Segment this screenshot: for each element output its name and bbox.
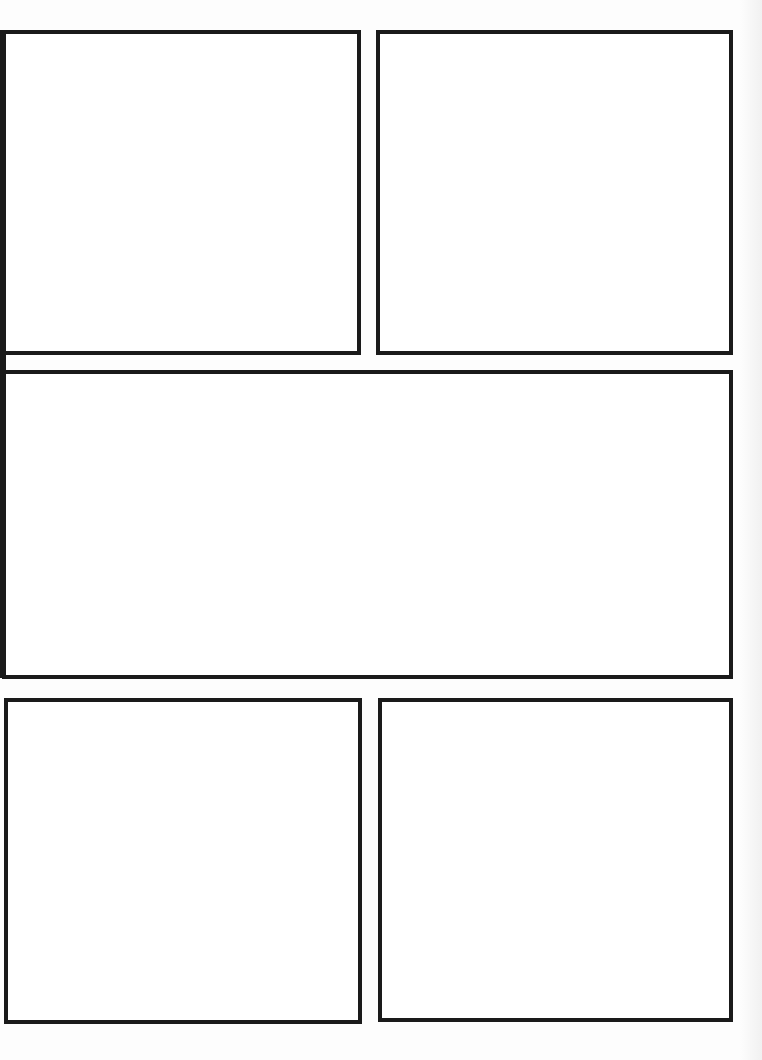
comic-panel-4	[4, 698, 362, 1024]
comic-panel-1	[2, 30, 361, 355]
comic-panel-2	[376, 30, 733, 355]
page-edge-shadow	[740, 0, 762, 1060]
comic-panel-3-wide	[2, 370, 733, 679]
comic-panel-5	[378, 698, 733, 1022]
